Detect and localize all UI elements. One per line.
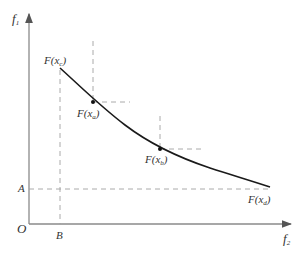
point-xa — [91, 100, 95, 104]
point-xa-label: F(xa) — [77, 108, 99, 121]
a-label: A — [18, 183, 25, 194]
point-xd-label: F(xd) — [248, 194, 270, 207]
b-label: B — [56, 230, 63, 241]
x-axis-label: f2 — [283, 232, 290, 247]
origin-label: O — [17, 222, 26, 235]
point-xb — [158, 147, 162, 151]
point-xb-label: F(xb) — [145, 154, 167, 167]
point-xc-label: F(xc) — [44, 55, 66, 68]
pareto-front-curve — [60, 68, 270, 187]
pareto-diagram — [0, 0, 306, 258]
y-axis-label: f1 — [12, 12, 19, 27]
